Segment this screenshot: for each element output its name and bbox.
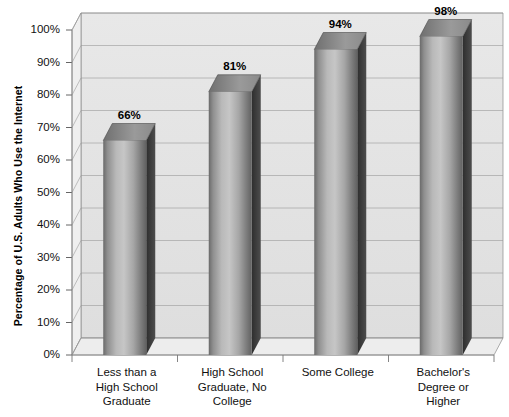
plot-area [0, 0, 509, 417]
bar-chart: Percentage of U.S. Adults Who Use the In… [0, 0, 509, 417]
x-axis-category-label: Some College [283, 365, 393, 380]
bar-value-label: 94% [329, 18, 352, 30]
x-axis-category-label: Bachelor's Degree or Higher [388, 365, 498, 409]
x-axis-category-label: Less than a High School Graduate [72, 365, 182, 409]
bar-value-label: 98% [434, 5, 457, 17]
bar-column [314, 33, 366, 356]
bar-column [209, 75, 261, 355]
bar-value-label: 81% [223, 60, 246, 72]
bar-column [420, 20, 472, 356]
x-axis-category-label: High School Graduate, No College [177, 365, 287, 409]
bar-value-label: 66% [118, 109, 141, 121]
bar-column [103, 124, 155, 356]
